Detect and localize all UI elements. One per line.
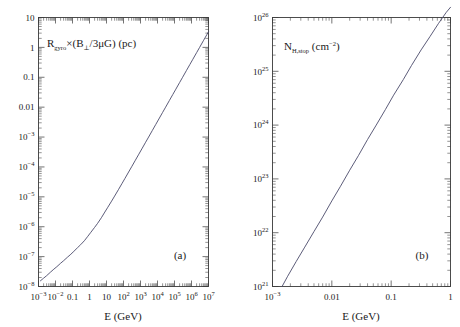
- tick-label: 10−8: [19, 280, 35, 292]
- tick-label: 0.1: [23, 72, 34, 82]
- tick-label: 0.1: [386, 292, 397, 302]
- tick-label: 102: [117, 290, 129, 302]
- tick-label: 10: [26, 13, 36, 23]
- tick-label: 1: [448, 292, 453, 302]
- tick-label: 1026: [253, 11, 269, 23]
- tick-label: 1025: [253, 65, 269, 77]
- panel-a-y-axis-label: Rgyro×(B⊥/3μG) (pc): [47, 37, 136, 51]
- tick-label: 1: [87, 292, 92, 302]
- panel-a-x-axis-label: E (GeV): [104, 310, 142, 323]
- tick-label: 10−6: [19, 220, 36, 232]
- tick-label: 10−3: [31, 290, 47, 302]
- panel-a-frame: [39, 18, 209, 287]
- tick-label: 0.1: [67, 292, 78, 302]
- panel-b-y-tick-labels: 102110221023102410251026: [253, 11, 269, 292]
- figure-container: 10−310−20.1110102103104105106107 10−810−…: [0, 0, 460, 327]
- tick-label: 10−5: [19, 190, 35, 202]
- tick-label: 104: [151, 290, 164, 302]
- panel-a-tag: (a): [174, 249, 187, 262]
- panel-a-x-tick-labels: 10−310−20.1110102103104105106107: [31, 290, 216, 302]
- tick-label: 1022: [253, 226, 269, 238]
- panel-a-data-curve: [40, 32, 208, 281]
- tick-label: 1: [30, 43, 35, 53]
- chart-panel-a: 10−310−20.1110102103104105106107 10−810−…: [0, 0, 230, 327]
- panel-b-svg: 10−30.010.11 102110221023102410251026 NH…: [230, 0, 460, 327]
- tick-label: 1024: [253, 118, 269, 130]
- tick-label: 0.01: [19, 102, 35, 112]
- panel-b-tag: (b): [416, 249, 429, 262]
- tick-label: 10−3: [19, 130, 35, 142]
- tick-label: 106: [185, 290, 198, 302]
- tick-label: 10−3: [265, 290, 281, 302]
- panel-a-svg: 10−310−20.1110102103104105106107 10−810−…: [0, 0, 230, 327]
- panel-b-y-axis-label: NH,stop (cm−2): [284, 40, 340, 54]
- tick-label: 10−2: [48, 290, 64, 302]
- panel-b-x-axis-label: E (GeV): [342, 310, 380, 323]
- panel-a-tick-marks: [39, 18, 209, 287]
- panel-b-frame: [273, 18, 451, 287]
- panel-b-tick-marks: [273, 18, 451, 287]
- panel-a-y-tick-labels: 10−810−710−610−510−410−30.010.1110: [19, 13, 36, 292]
- tick-label: 0.01: [324, 292, 340, 302]
- chart-panel-b: 10−30.010.11 102110221023102410251026 NH…: [230, 0, 460, 327]
- tick-label: 10−7: [19, 250, 36, 262]
- tick-label: 1023: [253, 172, 269, 184]
- tick-label: 105: [168, 290, 180, 302]
- panel-b-x-tick-labels: 10−30.010.11: [265, 290, 453, 302]
- tick-label: 107: [202, 290, 215, 302]
- tick-label: 103: [134, 290, 146, 302]
- tick-label: 10−4: [19, 160, 36, 172]
- tick-label: 10: [102, 292, 112, 302]
- tick-label: 1021: [253, 280, 269, 292]
